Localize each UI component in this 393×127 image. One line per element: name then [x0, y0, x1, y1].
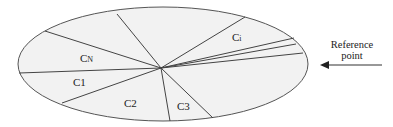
- sector-label-c2: C2: [124, 97, 137, 109]
- ellipse-region: [18, 7, 308, 121]
- sector-diagram: CNC1C2C3Ci Reference point: [0, 0, 393, 127]
- sector-label-c1: C1: [73, 76, 86, 88]
- sector-label-c3: C3: [177, 100, 190, 112]
- reference-label-line2: point: [341, 50, 363, 61]
- reference-label-line1: Reference: [331, 39, 374, 50]
- reference-point-group: Reference point: [320, 39, 382, 69]
- arrow-left-icon: [320, 61, 329, 69]
